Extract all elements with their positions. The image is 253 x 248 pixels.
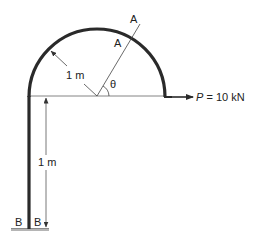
curved-bar-diagram: 1 m A A θ P = 10 kN 1 m B B — [0, 0, 253, 248]
section-line — [97, 24, 140, 96]
angle-arc — [103, 86, 109, 96]
radius-dimension-line — [84, 84, 97, 96]
section-label-outer: A — [130, 13, 138, 25]
semicircular-arc — [29, 29, 165, 97]
angle-label: θ — [110, 78, 116, 90]
radius-label: 1 m — [66, 69, 84, 81]
support-label-right: B — [34, 216, 41, 228]
section-label-inner: A — [114, 37, 122, 49]
height-label: 1 m — [38, 156, 56, 168]
load-value: = 10 kN — [203, 91, 244, 103]
load-label: P = 10 kN — [196, 91, 245, 103]
support-label-left: B — [15, 216, 22, 228]
radius-dimension-line-upper — [51, 51, 67, 66]
